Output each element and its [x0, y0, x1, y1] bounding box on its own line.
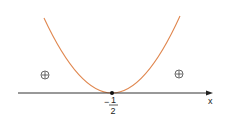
right-region-plus-sign-icon [175, 70, 183, 78]
sign-chart-diagram: − 1 2 x [0, 0, 227, 119]
x-axis-label: x [208, 96, 213, 106]
vertex-label-numerator: 1 [111, 95, 116, 105]
vertex-label-denominator: 2 [111, 106, 116, 116]
vertex-label-minus: − [104, 97, 109, 107]
parabola-curve [44, 16, 180, 93]
x-axis-arrow-icon [206, 91, 213, 96]
left-region-plus-sign-icon [41, 71, 49, 79]
diagram-svg: − 1 2 x [0, 0, 227, 119]
